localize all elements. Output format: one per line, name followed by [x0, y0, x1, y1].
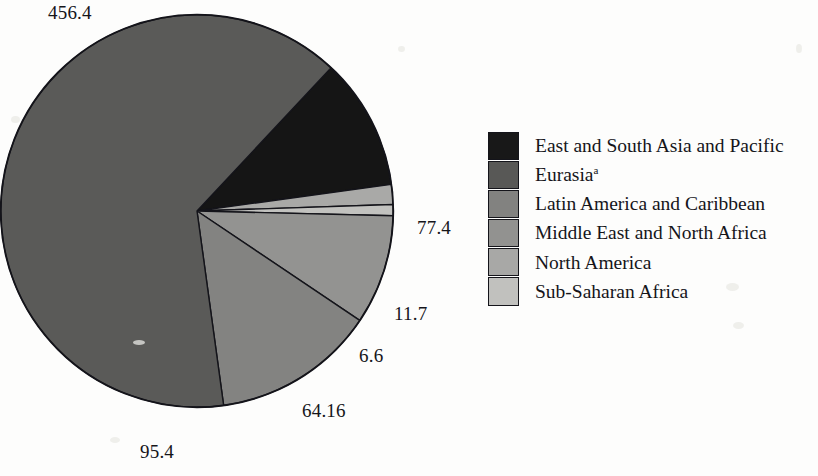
scan-speckle — [110, 437, 120, 443]
scan-speckle — [726, 283, 739, 291]
scan-speckle — [133, 340, 145, 345]
middle-east-value: 64.16 — [302, 400, 346, 422]
legend-item[interactable]: North America — [488, 248, 784, 277]
legend-label: Sub-Saharan Africa — [535, 282, 688, 302]
pie-chart-figure: 456.477.411.76.664.1695.4 East and South… — [0, 0, 818, 476]
chart-legend: East and South Asia and PacificEurasiaaL… — [488, 131, 784, 306]
legend-item[interactable]: Eurasiaa — [488, 160, 784, 189]
latin-america-value: 95.4 — [140, 441, 174, 463]
legend-swatch — [488, 219, 519, 247]
legend-swatch — [488, 161, 519, 189]
eurasia-value: 456.4 — [48, 2, 92, 24]
scan-speckle — [398, 46, 405, 52]
legend-swatch — [488, 248, 519, 276]
legend-swatch — [488, 277, 519, 305]
legend-item[interactable]: Sub-Saharan Africa — [488, 277, 784, 306]
legend-swatch — [488, 190, 519, 218]
legend-label: North America — [535, 253, 651, 273]
legend-footnote-marker: a — [593, 164, 598, 176]
pie-svg — [0, 0, 410, 425]
pie-chart — [0, 0, 410, 425]
legend-label: East and South Asia and Pacific — [535, 136, 784, 156]
legend-label: Latin America and Caribbean — [535, 194, 765, 214]
legend-label: Middle East and North Africa — [535, 223, 767, 243]
scan-speckle — [11, 116, 20, 123]
legend-item[interactable]: East and South Asia and Pacific — [488, 131, 784, 160]
north-america-value: 11.7 — [394, 303, 427, 325]
legend-item[interactable]: Latin America and Caribbean — [488, 189, 784, 218]
legend-label: Eurasiaa — [535, 165, 598, 185]
east-asia-value: 77.4 — [417, 217, 451, 239]
scan-speckle — [733, 322, 744, 329]
sub-saharan-value: 6.6 — [359, 345, 383, 367]
legend-item[interactable]: Middle East and North Africa — [488, 219, 784, 248]
legend-swatch — [488, 132, 519, 160]
scan-speckle — [796, 44, 802, 53]
